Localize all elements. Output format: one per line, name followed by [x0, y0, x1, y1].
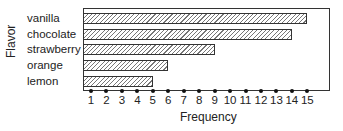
tick-mark — [104, 89, 108, 93]
category-label: strawberry — [27, 43, 81, 55]
tick-mark — [182, 89, 186, 93]
bar-orange — [83, 60, 168, 71]
tick-mark — [135, 89, 139, 93]
x-axis-label: Frequency — [180, 110, 237, 124]
tick-mark — [228, 89, 232, 93]
bar-chocolate — [83, 29, 292, 40]
tick-mark — [120, 89, 124, 93]
tick-mark — [166, 89, 170, 93]
tick-mark — [213, 89, 217, 93]
tick-mark — [244, 89, 248, 93]
tick-mark — [151, 89, 155, 93]
bar-lemon — [83, 76, 153, 87]
tick-mark — [89, 89, 93, 93]
category-label: vanilla — [27, 12, 60, 24]
bar-strawberry — [83, 44, 215, 55]
category-label: chocolate — [27, 28, 76, 40]
tick-mark — [305, 89, 309, 93]
tick-mark — [274, 89, 278, 93]
category-label: orange — [27, 59, 63, 71]
tick-label: 15 — [297, 94, 317, 106]
y-axis-label: Flavor — [4, 25, 18, 58]
tick-mark — [290, 89, 294, 93]
tick-mark — [197, 89, 201, 93]
bar-vanilla — [83, 13, 307, 24]
category-label: lemon — [27, 75, 58, 87]
tick-mark — [259, 89, 263, 93]
